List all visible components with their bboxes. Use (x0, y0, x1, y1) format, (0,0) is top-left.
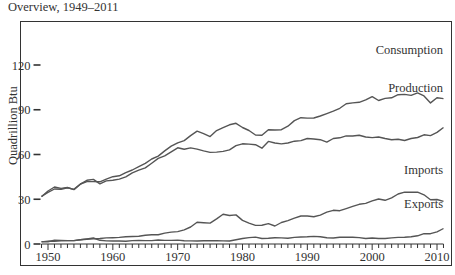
x-tick-label: 1950 (36, 250, 61, 264)
x-tick-label: 2000 (360, 250, 385, 264)
x-tick-label: 2010 (425, 250, 450, 264)
x-tick-label: 1990 (295, 250, 320, 264)
y-tick-label: 0 (24, 238, 30, 252)
series-line-imports (42, 192, 444, 242)
y-tick-label: 30 (18, 193, 31, 207)
series-line-consumption (42, 93, 444, 196)
x-tick-label: 1970 (165, 250, 190, 264)
series-line-production (42, 128, 444, 197)
series-label-exports: Exports (404, 197, 443, 211)
line-chart: 03060901201950196019701980199020002010Co… (0, 0, 455, 275)
series-label-production: Production (388, 81, 444, 95)
y-tick-label: 120 (12, 59, 31, 73)
x-tick-label: 1980 (230, 250, 255, 264)
series-label-consumption: Consumption (376, 43, 444, 57)
y-tick-label: 90 (18, 103, 31, 117)
series-line-exports (42, 229, 444, 242)
series-label-imports: Imports (404, 163, 443, 177)
x-tick-label: 1960 (100, 250, 125, 264)
y-tick-label: 60 (18, 148, 31, 162)
